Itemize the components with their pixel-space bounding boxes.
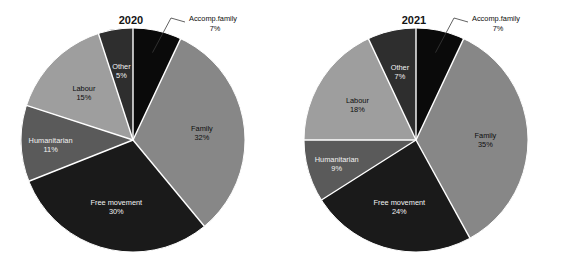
- pie-label-family: Family: [475, 131, 497, 140]
- pie-label-accomp-family: Accomp.family: [472, 14, 520, 23]
- pie-chart-2021: Accomp.family7%Family35%Free movement24%…: [283, 0, 566, 268]
- pie-label-humanitarian: Humanitarian: [315, 155, 359, 164]
- pie-value-humanitarian: 9%: [331, 164, 342, 173]
- pie-title-2021: 2021: [402, 14, 426, 26]
- pie-chart-figure: Accomp.family7%Family32%Free movement30%…: [0, 0, 566, 268]
- pie-label-humanitarian: Humanitarian: [29, 136, 73, 145]
- pie-value-other: 5%: [116, 71, 127, 80]
- pie-value-humanitarian: 11%: [43, 145, 58, 154]
- pie-label-accomp-family: Accomp.family: [189, 14, 237, 23]
- pie-svg-2020: Accomp.family7%Family32%Free movement30%…: [0, 0, 283, 268]
- pie-value-accomp-family: 7%: [210, 24, 221, 33]
- pie-value-family: 32%: [195, 133, 210, 142]
- pie-chart-2020: Accomp.family7%Family32%Free movement30%…: [0, 0, 283, 268]
- pie-title-2020: 2020: [119, 14, 143, 26]
- pie-value-accomp-family: 7%: [493, 24, 504, 33]
- pie-value-other: 7%: [395, 72, 406, 81]
- pie-value-labour: 15%: [77, 93, 92, 102]
- pie-svg-2021: Accomp.family7%Family35%Free movement24%…: [283, 0, 566, 268]
- pie-label-family: Family: [191, 124, 213, 133]
- pie-value-labour: 18%: [350, 105, 365, 114]
- pie-value-free-movement: 30%: [109, 207, 124, 216]
- pie-label-free-movement: Free movement: [373, 198, 425, 207]
- pie-label-labour: Labour: [346, 96, 370, 105]
- pie-value-family: 35%: [478, 140, 493, 149]
- pie-label-free-movement: Free movement: [90, 198, 142, 207]
- pie-value-free-movement: 24%: [392, 207, 407, 216]
- pie-label-labour: Labour: [72, 84, 96, 93]
- pie-label-other: Other: [391, 63, 410, 72]
- pie-label-other: Other: [112, 62, 131, 71]
